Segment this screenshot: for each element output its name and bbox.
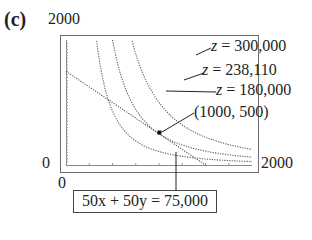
curve-label-z-238110: z = 238,110 <box>202 61 277 79</box>
curve-label-z-300000: z = 300,000 <box>211 37 286 55</box>
optimal-point-marker <box>158 131 162 135</box>
constraint-equation-box: 50x + 50y = 75,000 <box>73 190 217 213</box>
point-label: (1000, 500) <box>194 103 269 121</box>
curve-label-z-180000: z = 180,000 <box>216 81 291 99</box>
